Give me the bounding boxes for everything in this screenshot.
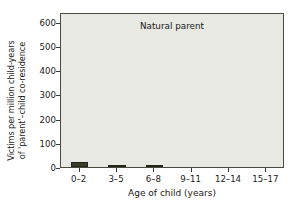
y-axis-tick-label: 500	[26, 42, 56, 51]
x-axis-tick-mark	[116, 168, 117, 172]
y-axis-tick-label: 100	[26, 139, 56, 148]
y-axis-tick-mark	[56, 168, 60, 169]
y-axis-title: Victims per million child-years of 'pare…	[6, 21, 27, 181]
y-axis-tick-labels: 0100200300400500600	[26, 13, 56, 168]
x-axis-tick-label: 15–17	[252, 174, 278, 184]
x-axis-tick-mark	[228, 168, 229, 172]
y-axis-title-line-2: of 'parent'–child co-residence	[16, 21, 27, 181]
bar	[146, 165, 163, 167]
y-axis-title-line-1: Victims per million child-years	[6, 21, 17, 181]
x-axis-tick-mark	[153, 168, 154, 172]
x-axis-tick-label: 9–11	[180, 174, 201, 184]
x-axis-tick-labels: 0–23–56–89–1112–1415–17	[60, 174, 284, 188]
y-axis-tick-label: 0	[26, 164, 56, 173]
y-axis-tick-label: 600	[26, 18, 56, 27]
y-axis-tick-label: 200	[26, 115, 56, 124]
x-axis-tick-label: 6–8	[146, 174, 161, 184]
x-axis-tick-mark	[191, 168, 192, 172]
x-axis-tick-mark	[79, 168, 80, 172]
y-axis-tick-label: 400	[26, 67, 56, 76]
x-axis-tick-label: 0–2	[71, 174, 86, 184]
bar	[108, 165, 125, 167]
chart-figure: Victims per million child-years of 'pare…	[0, 0, 293, 210]
bar-series	[61, 14, 283, 167]
y-axis-tick-label: 300	[26, 91, 56, 100]
x-axis-title: Age of child (years)	[60, 188, 284, 198]
x-axis-tick-label: 12–14	[215, 174, 241, 184]
bar	[71, 162, 88, 167]
x-axis-tick-label: 3–5	[108, 174, 123, 184]
x-axis-tick-mark	[265, 168, 266, 172]
plot-area: Natural parent	[60, 13, 284, 168]
